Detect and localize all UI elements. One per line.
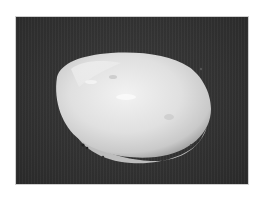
figure <box>0 0 266 198</box>
specimen-mass <box>51 47 213 165</box>
caption-text-cutoff <box>16 0 256 4</box>
specimen-photo <box>15 16 249 185</box>
